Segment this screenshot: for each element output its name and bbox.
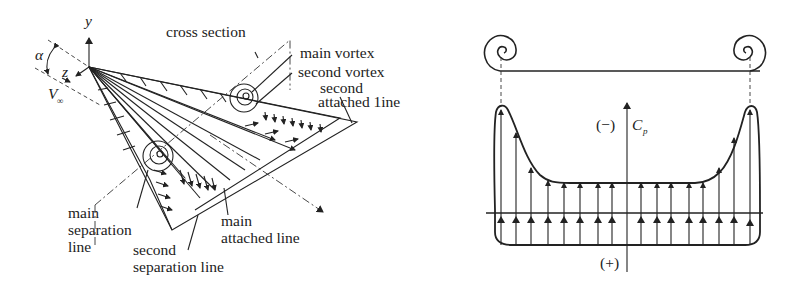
alpha-arc: [47, 48, 54, 74]
cross-section-plane: [95, 40, 290, 205]
main-separation-label-1: main: [68, 204, 99, 221]
centerline-arrow: [210, 135, 323, 212]
main-vortex-upper: [230, 84, 258, 112]
main-vortex-lower: [143, 141, 173, 171]
main-separation-label-2: separation: [68, 221, 132, 238]
figure-canvas: y z α V ∞: [0, 0, 793, 298]
second-attached-label-2: attached 1ine: [318, 93, 400, 110]
freestream-subscript: ∞: [57, 96, 63, 106]
negative-label: (−): [596, 116, 615, 134]
delta-wing-diagram: y z α V ∞: [35, 12, 400, 275]
cross-section-leader: [255, 52, 258, 58]
body-axis-line: [48, 40, 89, 67]
z-axis-label: z: [61, 63, 68, 80]
streamline-fan: [89, 67, 295, 198]
primary-arrows-lower: [154, 170, 215, 210]
cp-axis-subscript: p: [642, 126, 648, 136]
main-attached-label-2: attached line: [221, 229, 300, 246]
main-attached-label-1: main: [221, 212, 252, 229]
cross-section-label: cross section: [166, 23, 246, 40]
cp-axis-label: C: [632, 116, 643, 133]
second-separation-label-1: second: [133, 241, 176, 258]
z-axis-arrow: [76, 67, 89, 76]
second-vortex-label: second vortex: [298, 63, 385, 80]
alpha-label: α: [35, 46, 44, 63]
left-vortex-spiral: [485, 36, 517, 71]
cp-distribution-diagram: (−) C p (+): [485, 36, 766, 272]
main-vortex-label: main vortex: [300, 44, 375, 61]
second-vortex-leader: [256, 73, 292, 104]
second-separation-label-2: separation line: [133, 258, 224, 275]
main-vortex-leader: [252, 55, 292, 92]
main-attached-leader: [224, 188, 228, 215]
lower-arrowheads: [497, 216, 754, 226]
y-axis-label: y: [83, 12, 92, 29]
main-separation-leader: [137, 170, 148, 208]
main-separation-label-3: line: [68, 238, 91, 255]
positive-label: (+): [600, 254, 619, 272]
